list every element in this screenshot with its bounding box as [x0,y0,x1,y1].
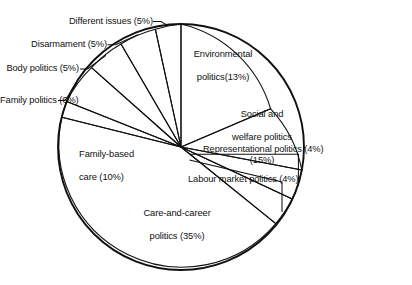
slice-label-family-based-care: Family-based care (10%) [69,136,165,194]
pie-chart: Environmental politics(13%) Social and w… [0,0,412,285]
label-line: politics(13%) [197,71,249,82]
label-line: Family-based [79,148,134,159]
slice-label-family-politics: Family politics (6%) [0,95,57,107]
label-line: welfare politics [232,131,292,142]
label-line: Social and [241,108,284,119]
slice-label-different-issues: Different issues (5%) [0,16,153,28]
slice-label-care-and-career-politics: Care-and-career politics (35%) [117,195,227,253]
label-line: (15%) [250,154,275,165]
label-line: Care-and-career [143,207,210,218]
label-line: Environmental [194,48,253,59]
slice-label-representational-politics: Representational politics (4%) [203,144,324,156]
label-line: care (10%) [79,171,124,182]
slice-label-social-and-welfare-politics: Social and welfare politics (15%) [211,96,303,177]
slice-label-labour-market-politics: Labour market politics (4%) [188,174,298,186]
slice-label-environmental-politics: Environmental politics(13%) [168,36,268,94]
label-line: politics (35%) [150,230,205,241]
slice-label-body-politics: Body politics (5%) [0,63,79,75]
slice-label-disarmament: Disarmament (5%) [0,39,107,51]
